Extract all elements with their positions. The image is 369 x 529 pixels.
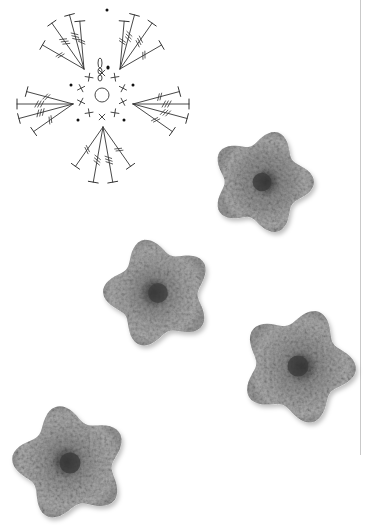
flower-photo-2 [93, 228, 223, 358]
treble-crochet-symbol [42, 45, 84, 69]
slip-stitch-dot [70, 84, 73, 87]
treble-crochet-symbol [133, 104, 187, 118]
treble-crochet-symbol [27, 92, 73, 104]
treble-crochet-symbol [120, 23, 152, 69]
crochet-symbol-chart [0, 0, 200, 185]
flower-photo-1 [200, 120, 324, 244]
treble-crochet-symbol [52, 23, 84, 69]
flower-center [148, 283, 168, 303]
slip-stitch-dot [107, 66, 110, 69]
slip-stitch-dot [106, 9, 109, 12]
treble-crochet-symbol [133, 104, 172, 132]
slip-stitch-dot [77, 119, 80, 122]
treble-crochet-symbol [19, 104, 73, 118]
magic-ring-symbol [95, 88, 109, 102]
treble-crochet-symbol [75, 127, 103, 166]
treble-crochet-symbol [34, 104, 73, 132]
treble-crochet-symbol [120, 45, 162, 69]
slip-stitch-dot [123, 119, 126, 122]
flower-center [60, 453, 81, 474]
treble-crochet-symbol [103, 127, 131, 166]
flower-photo-4 [2, 395, 138, 529]
chain-symbol [98, 75, 102, 81]
treble-crochet-symbol [103, 127, 113, 182]
flower-photo-3 [230, 298, 366, 434]
treble-crochet-symbol [133, 92, 179, 104]
slip-stitch-dot [132, 84, 135, 87]
chain-symbol [98, 58, 102, 68]
treble-crochet-symbol [93, 127, 103, 182]
flower-center [288, 356, 309, 377]
flower-center [253, 173, 272, 192]
